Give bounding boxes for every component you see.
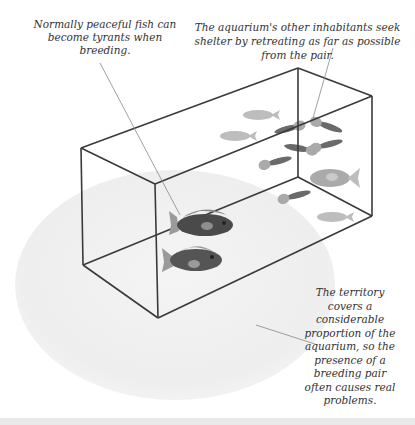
guppy-icon (276, 187, 311, 205)
guppy-icon (257, 153, 292, 171)
guppy-icon (308, 136, 343, 154)
fish-icon (243, 110, 280, 120)
guppy-group (257, 115, 344, 205)
diagram-canvas: Normally peaceful fish can become tyrant… (0, 0, 415, 425)
territory-zone (15, 170, 335, 400)
caption-peaceful-fish: Normally peaceful fish can become tyrant… (30, 18, 180, 57)
caption-inhabitants-shelter: The aquarium's other inhabitants seek sh… (185, 20, 410, 62)
fish-icon (317, 212, 354, 222)
fish-icon (310, 168, 360, 188)
caption-territory: The territory covers a considerable prop… (300, 286, 400, 408)
fish-icon (220, 131, 257, 141)
guppy-icon (309, 115, 344, 136)
bottom-strip (0, 418, 415, 425)
